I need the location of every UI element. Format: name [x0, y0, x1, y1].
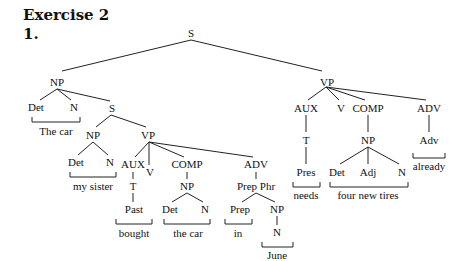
node-adv: ADV	[244, 158, 268, 170]
syntax-tree: S NP Det N S NP Det N VP AUX V COMP ADV …	[0, 0, 464, 261]
bracket-needs	[293, 182, 320, 187]
bracket-the-car	[32, 117, 80, 122]
node-adv: ADV	[417, 102, 441, 114]
word-bought: bought	[119, 227, 150, 239]
node-v: V	[337, 102, 345, 114]
node-s-root: S	[188, 27, 194, 39]
node-adv-word: Adv	[420, 134, 439, 146]
node-n: N	[70, 101, 78, 113]
node-np-object: NP	[180, 180, 194, 192]
node-past: Past	[125, 203, 143, 215]
node-s-relative: S	[109, 102, 115, 114]
node-adj: Adj	[360, 166, 377, 178]
node-det: Det	[28, 101, 44, 113]
word-june: June	[267, 249, 287, 261]
node-vp-relative: VP	[141, 129, 155, 141]
node-comp: COMP	[171, 158, 202, 170]
node-np-subject: NP	[50, 76, 64, 88]
word-four-new-tires: four new tires	[337, 189, 398, 201]
node-np-pp: NP	[270, 203, 284, 215]
word-my-sister: my sister	[73, 180, 113, 192]
word-already: already	[413, 160, 446, 172]
node-n: N	[273, 226, 281, 238]
bracket-the-car-2	[164, 219, 210, 224]
node-t: T	[130, 180, 137, 192]
node-prep: Prep	[230, 203, 251, 215]
node-v: V	[146, 166, 154, 178]
bracket-four-new-tires	[330, 182, 408, 187]
node-det: Det	[68, 156, 84, 168]
tree-words: The car my sister bought the car in June…	[39, 125, 445, 261]
node-np-relative: NP	[86, 129, 100, 141]
node-n: N	[106, 156, 114, 168]
word-the-car-2: the car	[173, 227, 203, 239]
node-t: T	[303, 134, 310, 146]
node-vp-main: VP	[320, 76, 334, 88]
node-det: Det	[162, 203, 178, 215]
bracket-my-sister	[70, 172, 116, 177]
bracket-already	[413, 153, 445, 158]
node-aux: AUX	[294, 102, 318, 114]
word-needs: needs	[293, 189, 318, 201]
node-np-object: NP	[361, 134, 375, 146]
bracket-bought	[116, 219, 152, 224]
node-pres: Pres	[297, 166, 316, 178]
word-the-car: The car	[39, 125, 73, 137]
node-comp: COMP	[352, 102, 383, 114]
word-in: in	[234, 227, 243, 239]
bracket-in	[225, 219, 252, 224]
node-aux: AUX	[121, 158, 145, 170]
tree-nodes: S NP Det N S NP Det N VP AUX V COMP ADV …	[28, 27, 441, 238]
node-n: N	[201, 203, 209, 215]
node-det: Det	[329, 166, 345, 178]
node-prep-phr: Prep Phr	[237, 180, 276, 192]
bracket-june	[262, 242, 293, 247]
node-n: N	[398, 166, 406, 178]
